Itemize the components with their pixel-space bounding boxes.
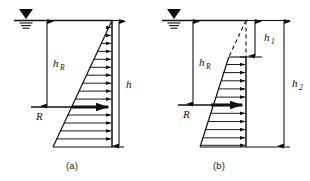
label-h2-b: h (292, 77, 298, 89)
panel-b: h R R h 1 h 2 (162, 9, 303, 147)
water-table-icon-a (19, 9, 33, 28)
diagram-svg: h R R h (0, 0, 310, 181)
panel-a: h R R h (14, 9, 132, 147)
label-hr-a: h (53, 57, 59, 69)
label-h2-sub-b: 2 (299, 83, 303, 92)
label-h1-sub-b: 1 (271, 37, 275, 46)
pressure-hypotenuse-dashed-b (229, 21, 246, 58)
label-h1-b: h (264, 31, 270, 43)
caption-panel-a: (a) (66, 160, 78, 171)
label-hr-sub-a: R (59, 63, 65, 72)
water-table-icon-b (167, 9, 181, 28)
label-hr-sub-b: R (205, 62, 211, 71)
pressure-hypotenuse-b (200, 57, 229, 147)
label-hr-b: h (199, 56, 205, 68)
pressure-hypotenuse-a (53, 21, 112, 148)
label-R-a: R (35, 110, 43, 122)
figure-container: h R R h (0, 0, 310, 181)
label-h-a: h (126, 78, 132, 90)
label-R-b: R (182, 108, 190, 120)
caption-panel-b: (b) (213, 160, 225, 171)
